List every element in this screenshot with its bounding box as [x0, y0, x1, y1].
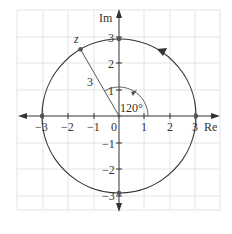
real-axis-label: Re: [204, 120, 217, 134]
y-tick-label: 3: [108, 31, 114, 45]
point-z-label: z: [73, 32, 79, 46]
point-3: [194, 114, 199, 119]
y-tick-label: 2: [108, 57, 114, 71]
real-axis-arrow-left-icon: [18, 113, 27, 119]
radius-label: 3: [87, 75, 93, 89]
x-tick-label: 2: [167, 120, 173, 134]
point-3i: [117, 37, 122, 42]
real-axis-arrow-right-icon: [211, 113, 220, 119]
point-minus-3: [40, 114, 45, 119]
origin-label: 0: [111, 120, 117, 134]
point-minus-3i: [117, 191, 122, 196]
imaginary-axis-arrow-down-icon: [116, 203, 122, 212]
imaginary-axis-label: Im: [99, 11, 113, 25]
x-tick-label: 1: [141, 120, 147, 134]
x-tick-label: 3: [192, 120, 198, 134]
y-tick-label: −1: [102, 137, 115, 151]
x-tick-label: −2: [61, 120, 74, 134]
y-tick-label: 1: [108, 84, 114, 98]
angle-label: 120°: [120, 101, 143, 115]
y-tick-label: −2: [102, 163, 115, 177]
complex-plane-diagram: Im Re 0 −3 −2 −1 1 2 3 3 2 1 −1 −2 −3 z …: [0, 0, 232, 234]
x-tick-label: −1: [87, 120, 100, 134]
x-tick-label: −3: [35, 120, 48, 134]
point-z: [78, 47, 83, 52]
y-tick-label: −3: [102, 189, 115, 203]
